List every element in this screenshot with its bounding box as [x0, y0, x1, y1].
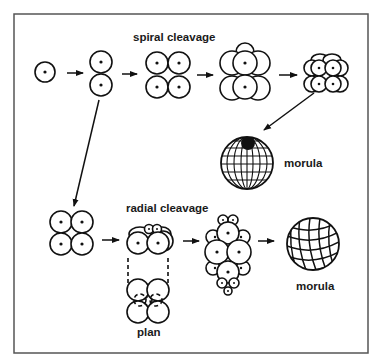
radial-4-cell	[50, 211, 93, 255]
spiral-1-cell	[35, 62, 55, 82]
radial-morula-label: morula	[296, 280, 335, 292]
spiral-16-cell	[304, 54, 348, 92]
radial-32-cell	[205, 215, 251, 295]
spiral-2-cell	[90, 51, 112, 96]
arrow-icon	[264, 93, 314, 130]
plan-label: plan	[137, 326, 161, 338]
spiral-morula-globe-icon	[220, 136, 274, 189]
cleavage-diagram: spiral cleavage radial cleavage morula m…	[0, 0, 380, 362]
spiral-morula-label: morula	[284, 157, 323, 169]
spiral-4-cell	[146, 52, 190, 98]
radial-morula-lattice-icon	[287, 218, 339, 270]
spiral-cleavage-label: spiral cleavage	[133, 31, 215, 43]
spiral-8-cell	[220, 43, 270, 100]
radial-cleavage-label: radial cleavage	[126, 202, 208, 214]
radial-8-cell	[127, 225, 173, 255]
radial-plan-view	[127, 279, 169, 323]
arrow-icon	[74, 100, 99, 206]
